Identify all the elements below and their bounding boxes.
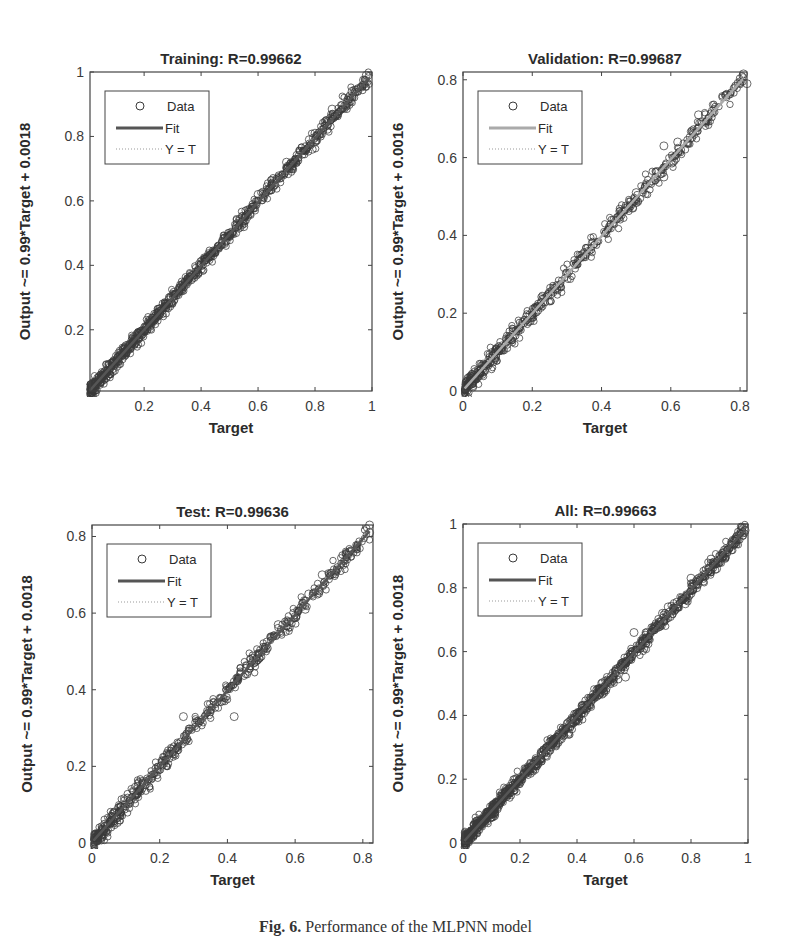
x-axis-label: Target — [583, 419, 628, 436]
x-tick-label: 0.2 — [150, 850, 170, 866]
y-tick-label: 0.2 — [65, 322, 85, 338]
panel-title: Test: R=0.99636 — [176, 503, 289, 520]
panel-title: All: R=0.99663 — [554, 502, 656, 519]
legend-fit-label: Fit — [538, 573, 553, 588]
y-axis-label: Output ~= 0.99*Target + 0.0018 — [16, 123, 33, 341]
legend-fit-label: Fit — [538, 121, 553, 136]
panel-title: Training: R=0.99662 — [160, 50, 301, 67]
x-tick-label: 0.2 — [134, 398, 154, 414]
y-axis-label: Output ~= 0.99*Target + 0.0018 — [389, 575, 406, 793]
legend: DataFitY = T — [105, 91, 209, 164]
y-tick-label: 1 — [449, 516, 457, 532]
x-axis-label: Target — [583, 871, 628, 888]
y-tick-label: 0.8 — [438, 580, 458, 596]
legend-data-label: Data — [169, 552, 197, 567]
legend-fit-label: Fit — [167, 574, 182, 589]
legend-data-label: Data — [540, 99, 568, 114]
x-tick-label: 0 — [459, 398, 467, 414]
x-tick-label: 0.4 — [592, 398, 612, 414]
y-tick-label: 0.4 — [438, 227, 458, 243]
legend-identity-label: Y = T — [167, 595, 198, 610]
x-tick-label: 0.6 — [661, 398, 681, 414]
x-tick-label: 0.2 — [523, 398, 543, 414]
x-tick-label: 0.8 — [730, 398, 750, 414]
legend-data-label: Data — [167, 99, 195, 114]
y-tick-label: 1 — [76, 64, 84, 80]
caption-text: Performance of the MLPNN model — [305, 918, 532, 935]
y-tick-label: 0.4 — [438, 707, 458, 723]
y-tick-label: 0 — [78, 835, 86, 851]
x-axis-label: Target — [210, 871, 255, 888]
y-tick-label: 0.8 — [67, 528, 87, 544]
legend-identity-label: Y = T — [165, 142, 196, 157]
panel-validation: Validation: R=0.9968700.20.40.60.800.20.… — [389, 50, 751, 436]
x-tick-label: 0.8 — [305, 398, 325, 414]
legend-data-label: Data — [540, 551, 568, 566]
y-tick-label: 0.6 — [438, 644, 458, 660]
y-tick-label: 0.4 — [67, 682, 87, 698]
y-axis-label: Output ~= 0.99*Target + 0.0016 — [389, 123, 406, 341]
legend-fit-label: Fit — [165, 121, 180, 136]
x-tick-label: 0.4 — [218, 850, 238, 866]
y-tick-label: 0.2 — [67, 758, 87, 774]
x-axis-label: Target — [209, 419, 254, 436]
legend-identity-label: Y = T — [538, 594, 569, 609]
x-tick-label: 0.4 — [567, 850, 587, 866]
legend: DataFitY = T — [478, 543, 582, 616]
y-tick-label: 0.2 — [438, 305, 458, 321]
panel-all: All: R=0.9966300.20.40.60.8100.20.40.60.… — [389, 502, 752, 888]
x-tick-label: 0.4 — [191, 398, 211, 414]
y-tick-label: 0.4 — [65, 257, 85, 273]
x-tick-label: 1 — [744, 850, 752, 866]
x-tick-label: 0.8 — [353, 850, 373, 866]
panel-test: Test: R=0.9963600.20.40.60.800.20.40.60.… — [18, 503, 374, 888]
y-tick-label: 0 — [449, 383, 457, 399]
y-tick-label: 0 — [449, 835, 457, 851]
y-tick-label: 0.6 — [65, 193, 85, 209]
legend-identity-label: Y = T — [538, 142, 569, 157]
y-tick-label: 0.8 — [65, 128, 85, 144]
y-tick-label: 0.6 — [67, 605, 87, 621]
y-tick-label: 0.6 — [438, 150, 458, 166]
x-tick-label: 0.6 — [285, 850, 305, 866]
legend: DataFitY = T — [107, 544, 211, 617]
x-tick-label: 0.6 — [248, 398, 268, 414]
x-tick-label: 0.6 — [624, 850, 644, 866]
x-tick-label: 0 — [88, 850, 96, 866]
x-tick-label: 1 — [368, 398, 376, 414]
x-tick-label: 0.2 — [510, 850, 530, 866]
figure-caption: Fig. 6. Performance of the MLPNN model — [0, 918, 791, 936]
panel-training: Training: R=0.996620.20.40.60.810.20.40.… — [16, 50, 376, 436]
legend: DataFitY = T — [478, 91, 582, 164]
panel-title: Validation: R=0.99687 — [528, 50, 682, 67]
caption-label: Fig. 6. — [259, 918, 301, 935]
y-tick-label: 0.2 — [438, 771, 458, 787]
x-tick-label: 0.8 — [681, 850, 701, 866]
x-tick-label: 0 — [459, 850, 467, 866]
y-axis-label: Output ~= 0.99*Target + 0.0018 — [18, 575, 35, 793]
regression-figure: Training: R=0.996620.20.40.60.810.20.40.… — [0, 0, 791, 937]
y-tick-label: 0.8 — [438, 72, 458, 88]
